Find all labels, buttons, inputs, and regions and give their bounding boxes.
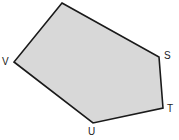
pentagon-svg xyxy=(0,0,179,140)
vertex-label-s: S xyxy=(164,51,171,61)
pentagon-shape xyxy=(14,3,163,123)
vertex-label-u: U xyxy=(88,127,95,137)
vertex-label-v: V xyxy=(2,57,9,67)
vertex-label-t: T xyxy=(167,104,173,114)
pentagon-diagram: V S T U xyxy=(0,0,179,140)
